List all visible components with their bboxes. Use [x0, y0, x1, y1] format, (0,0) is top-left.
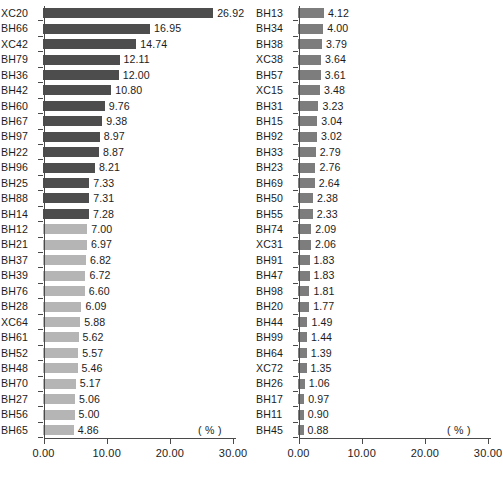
category-label: BH39: [0, 270, 38, 281]
right-unit-label: ( % ): [447, 424, 471, 436]
bar-value-label: 3.61: [325, 70, 346, 81]
bar-cell: 5.00: [43, 407, 255, 422]
bar-value-label: 8.97: [104, 131, 125, 142]
bar-row: BH742.09: [255, 222, 503, 237]
bar-cell: 0.90: [298, 407, 503, 422]
bar: [43, 271, 85, 281]
bar-cell: 2.33: [298, 206, 503, 221]
bar: [43, 178, 89, 188]
bar-row: XC383.64: [255, 52, 503, 67]
x-axis-tick-label: 10.00: [92, 447, 121, 459]
bar: [298, 178, 315, 188]
bar-value-label: 3.79: [326, 39, 347, 50]
bar-cell: 4.86: [43, 422, 255, 437]
category-label: BH92: [255, 131, 293, 142]
left-unit-label: ( % ): [198, 424, 222, 436]
bar-cell: 5.46: [43, 361, 255, 376]
bar-row: BH170.97: [255, 391, 503, 406]
bar-cell: 6.09: [43, 299, 255, 314]
bar-value-label: 14.74: [140, 39, 167, 50]
bar: [298, 85, 320, 95]
x-axis-tick: [425, 439, 426, 444]
bar-value-label: 1.77: [313, 301, 334, 312]
category-label: XC72: [255, 363, 293, 374]
category-label: BH88: [0, 193, 38, 204]
bar-row: BH153.04: [255, 114, 503, 129]
bar-row: BH679.38: [0, 114, 255, 129]
bar-row: BH573.61: [255, 67, 503, 82]
x-axis-tick-label: 20.00: [156, 447, 185, 459]
bar-row: BH485.46: [0, 361, 255, 376]
bar-row: XC312.06: [255, 237, 503, 252]
bar-row: BH911.83: [255, 253, 503, 268]
category-label: BH11: [255, 409, 293, 420]
bar: [298, 271, 310, 281]
x-axis-tick-label: 10.00: [347, 447, 376, 459]
bar-cell: 7.00: [43, 222, 255, 237]
bar-value-label: 7.00: [91, 224, 112, 235]
bar-cell: 1.83: [298, 268, 503, 283]
bar-row: BH441.49: [255, 314, 503, 329]
x-axis-tick: [362, 439, 363, 444]
bar-value-label: 5.00: [79, 409, 100, 420]
category-label: BH22: [0, 147, 38, 158]
category-label: BH13: [255, 8, 293, 19]
bar-value-label: 0.97: [308, 394, 329, 405]
bar-value-label: 2.76: [319, 162, 340, 173]
bar: [298, 24, 323, 34]
right-chart-rows: BH134.12BH344.00BH383.79XC383.64BH573.61…: [255, 6, 503, 438]
bar: [43, 101, 105, 111]
bar-value-label: 7.33: [93, 178, 114, 189]
x-axis-tick-label: 30.00: [474, 447, 503, 459]
bar-value-label: 1.39: [311, 348, 332, 359]
x-axis-tick: [107, 439, 108, 444]
bar-value-label: 7.31: [93, 193, 114, 204]
category-label: BH28: [0, 301, 38, 312]
category-label: BH42: [0, 85, 38, 96]
bar-value-label: 3.23: [322, 101, 343, 112]
category-label: BH47: [255, 270, 293, 281]
bar-cell: 7.28: [43, 206, 255, 221]
bar-value-label: 1.44: [311, 332, 332, 343]
bar: [43, 317, 80, 327]
right-chart-panel: BH134.12BH344.00BH383.79XC383.64BH573.61…: [255, 0, 503, 479]
x-axis-tick: [299, 439, 300, 444]
bar-cell: 3.04: [298, 114, 503, 129]
bar-row: XC4214.74: [0, 36, 255, 51]
bar: [298, 8, 324, 18]
bar-cell: 12.11: [43, 52, 255, 67]
category-label: BH34: [255, 23, 293, 34]
bar-row: BH991.44: [255, 330, 503, 345]
bar-value-label: 6.60: [89, 286, 110, 297]
bar-cell: 3.61: [298, 67, 503, 82]
category-label: BH65: [0, 425, 38, 436]
category-label: BH76: [0, 286, 38, 297]
bar-value-label: 3.02: [321, 131, 342, 142]
bar: [298, 55, 321, 65]
bar-value-label: 0.88: [308, 425, 329, 436]
bar-value-label: 2.79: [320, 147, 341, 158]
bar-row: BH313.23: [255, 98, 503, 113]
bar-value-label: 1.83: [314, 255, 335, 266]
category-label: BH96: [0, 162, 38, 173]
category-label: BH97: [0, 131, 38, 142]
bar-cell: 1.35: [298, 361, 503, 376]
x-axis-tick-label: 30.00: [219, 447, 248, 459]
bar-cell: 8.97: [43, 129, 255, 144]
bar-value-label: 6.72: [89, 270, 110, 281]
bar-row: BH127.00: [0, 222, 255, 237]
bar: [43, 348, 78, 358]
bar-row: BH147.28: [0, 206, 255, 221]
bar-cell: 4.00: [298, 21, 503, 36]
bar: [43, 332, 79, 342]
bar-cell: 1.81: [298, 283, 503, 298]
bar-row: BH766.60: [0, 283, 255, 298]
bar: [298, 255, 310, 265]
bar-value-label: 9.38: [106, 116, 127, 127]
bar: [298, 39, 322, 49]
bar-cell: 10.80: [43, 83, 255, 98]
right-axis-line: [299, 438, 491, 439]
bar-cell: 0.88: [298, 422, 503, 437]
bar-row: XC645.88: [0, 314, 255, 329]
left-axis-line: [44, 438, 236, 439]
